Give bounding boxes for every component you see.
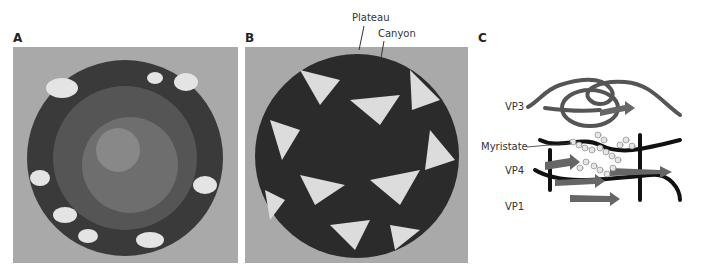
vp3-label: VP3 — [505, 101, 524, 112]
illustration-layer — [0, 0, 705, 280]
vp1-label: VP1 — [505, 201, 524, 212]
capsid-cutaway — [27, 60, 223, 256]
myristate-label: Myristate — [481, 141, 528, 152]
plateau-label: Plateau — [352, 12, 389, 23]
canyon-label: Canyon — [378, 28, 416, 39]
vp4-label: VP4 — [505, 165, 524, 176]
capsid-surface — [255, 54, 459, 258]
ribbon-diagram — [528, 80, 680, 206]
